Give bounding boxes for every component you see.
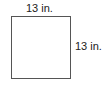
right-side-length-label: 13 in. (75, 41, 102, 52)
top-side-length-label: 13 in. (26, 3, 53, 14)
square-shape (11, 16, 71, 79)
